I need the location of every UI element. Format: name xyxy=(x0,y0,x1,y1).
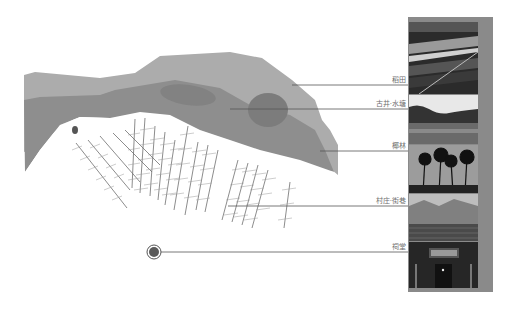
photo-well-pond xyxy=(409,95,478,144)
photo-village-streets xyxy=(409,194,478,241)
label-ancestral-hall: 祠堂 xyxy=(392,243,406,251)
ancestral-hall-marker-dot xyxy=(149,247,159,257)
label-coconut-grove: 椰林 xyxy=(392,142,406,150)
label-paddy: 稻田 xyxy=(392,76,406,84)
well-marker xyxy=(72,126,78,134)
label-well-pond: 古井·水塘 xyxy=(376,100,406,108)
photo-paddy xyxy=(409,22,478,94)
photo-ancestral-hall xyxy=(409,242,478,288)
photo-coconut-grove xyxy=(409,145,478,193)
pond-right xyxy=(248,93,288,127)
photo-strip xyxy=(408,17,493,292)
label-village-streets: 村庄·街巷 xyxy=(376,197,406,205)
